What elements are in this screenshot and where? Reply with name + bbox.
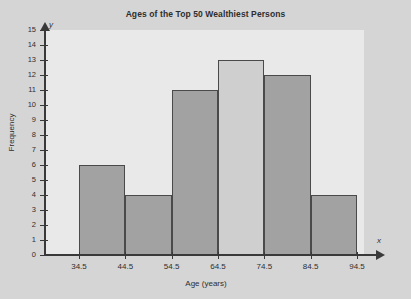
y-tick (40, 165, 48, 166)
histogram-bar (264, 75, 310, 255)
y-tick-label: 14 (14, 41, 36, 49)
histogram-figure: Ages of the Top 50 Wealthiest Persons y … (0, 0, 411, 299)
y-tick (40, 105, 48, 106)
y-tick-label: 4 (14, 191, 36, 199)
y-tick-label: 15 (14, 26, 36, 34)
x-tick (125, 252, 126, 259)
x-tick-label: 94.5 (337, 262, 377, 271)
y-tick (40, 45, 48, 46)
y-tick (40, 60, 48, 61)
y-tick-label: 7 (14, 146, 36, 154)
histogram-bar (218, 60, 264, 255)
y-tick-label: 9 (14, 116, 36, 124)
y-tick-label: 12 (14, 71, 36, 79)
x-tick (264, 252, 265, 259)
histogram-bar (79, 165, 125, 255)
y-tick (40, 225, 48, 226)
y-axis-line (44, 30, 46, 256)
y-tick (40, 75, 48, 76)
y-tick-label: 6 (14, 161, 36, 169)
x-tick-label: 84.5 (291, 262, 331, 271)
y-tick (40, 195, 48, 196)
y-tick (40, 30, 48, 31)
y-tick-label: 8 (14, 131, 36, 139)
x-tick-label: 64.5 (198, 262, 238, 271)
chart-title: Ages of the Top 50 Wealthiest Persons (0, 9, 411, 19)
y-tick (40, 120, 48, 121)
y-tick-label: 10 (14, 101, 36, 109)
x-axis-symbol: x (377, 236, 381, 245)
x-tick (311, 252, 312, 259)
histogram-bar (311, 195, 357, 255)
y-tick (40, 180, 48, 181)
x-tick-label: 54.5 (152, 262, 192, 271)
y-tick (40, 210, 48, 211)
x-tick (172, 252, 173, 259)
y-tick-label: 11 (14, 86, 36, 94)
x-tick (79, 252, 80, 259)
y-tick (40, 135, 48, 136)
x-tick-label: 44.5 (105, 262, 145, 271)
y-tick-label: 3 (14, 206, 36, 214)
y-tick-label: 1 (14, 236, 36, 244)
histogram-bar (125, 195, 171, 255)
x-axis-line (44, 254, 378, 256)
x-axis-title: Age (years) (131, 279, 281, 288)
y-tick (40, 90, 48, 91)
x-tick-label: 74.5 (244, 262, 284, 271)
y-tick-label: 13 (14, 56, 36, 64)
plot-area (46, 30, 364, 255)
x-tick (218, 252, 219, 259)
y-tick (40, 240, 48, 241)
y-tick-label: 5 (14, 176, 36, 184)
y-tick (40, 255, 48, 256)
y-axis-title: Frequency (7, 103, 16, 163)
x-tick (357, 252, 358, 259)
y-axis-symbol: y (49, 20, 53, 29)
y-tick (40, 150, 48, 151)
y-tick-label: 2 (14, 221, 36, 229)
x-axis-arrow-icon (376, 250, 385, 260)
y-tick-label: 0 (14, 251, 36, 259)
x-tick-label: 34.5 (59, 262, 99, 271)
histogram-bar (172, 90, 218, 255)
bar-series (46, 30, 364, 255)
